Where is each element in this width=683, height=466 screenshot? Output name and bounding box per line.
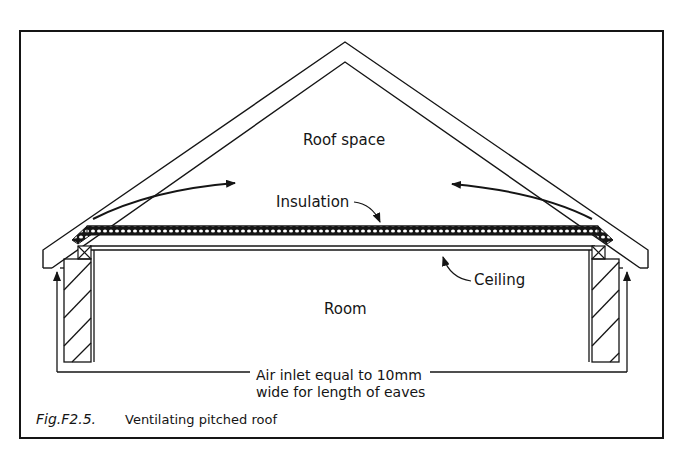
figure-number: Fig.F2.5.: [36, 411, 96, 427]
air-inlet-label-line1: Air inlet equal to 10mm: [256, 367, 422, 383]
ceiling: [90, 246, 595, 250]
air-inlet-arrows: [57, 268, 627, 372]
ceiling-label: Ceiling: [474, 271, 525, 289]
insulation-layer: [72, 226, 613, 244]
air-inlet-label-line2: wide for length of eaves: [256, 384, 425, 400]
room-label: Room: [324, 300, 367, 318]
insulation-label: Insulation: [276, 193, 349, 211]
right-wall: [589, 250, 619, 362]
figure-caption: Ventilating pitched roof: [125, 412, 277, 427]
roof-space-label: Roof space: [303, 131, 385, 149]
leader-lines: [354, 202, 471, 281]
left-wall: [64, 250, 94, 362]
wall-plates: [78, 246, 605, 259]
